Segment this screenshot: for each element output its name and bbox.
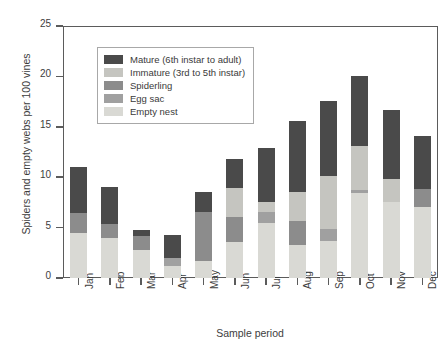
bar-segment [289,221,306,245]
x-axis-tick-mark [78,278,80,285]
bar-segment [414,189,431,207]
legend-item: Spiderling [104,79,245,92]
y-axis-tick-label: 0 [45,270,51,281]
bar-segment [70,213,87,232]
y-axis-tick-label: 10 [40,169,51,180]
y-axis-tick-mark [56,176,63,178]
x-axis-tick-mark [172,278,174,285]
bar-jan [70,167,87,278]
bar-segment [258,202,275,212]
legend: Mature (6th instar to adult)Immature (3r… [97,47,254,124]
bar-segment [133,236,150,250]
x-axis-tick-mark [359,278,361,285]
stacked-bar-chart: Spiders and empty webs per 100 vines Sam… [0,0,445,348]
bar-segment [414,207,431,278]
bar-segment [70,167,87,213]
bar-apr [164,235,181,278]
bar-segment [258,212,275,222]
x-axis-tick-mark [422,278,424,285]
legend-swatch [104,81,123,90]
bar-mar [133,230,150,278]
bar-segment [101,224,118,238]
y-axis-tick-mark [56,227,63,229]
x-axis-tick-mark [265,278,267,285]
legend-item: Mature (6th instar to adult) [104,53,245,66]
bar-segment [351,190,368,193]
x-axis-tick-mark [297,278,299,285]
bar-oct [351,76,368,278]
bar-segment [195,212,212,260]
bar-segment [133,230,150,236]
bar-aug [289,121,306,278]
y-axis-tick-label: 25 [40,18,51,29]
x-axis-tick-mark [140,278,142,285]
y-axis-tick-label: 15 [40,119,51,130]
bar-segment [258,148,275,202]
legend-label: Empty nest [130,107,178,117]
bar-segment [164,258,181,266]
bar-segment [164,235,181,258]
bar-segment [320,101,337,177]
bar-feb [101,187,118,278]
legend-item: Immature (3rd to 5th instar) [104,66,245,79]
legend-label: Immature (3rd to 5th instar) [130,68,245,78]
bar-segment [383,179,400,202]
bar-segment [70,233,87,278]
y-axis-title: Spiders and empty webs per 100 vines [20,34,32,254]
bar-segment [101,187,118,223]
legend-swatch [104,107,123,116]
bar-segment [226,217,243,242]
bar-segment [226,242,243,278]
y-axis-tick-label: 20 [40,68,51,79]
bar-jul [258,148,275,278]
y-axis-tick-mark [56,76,63,78]
x-axis-tick-mark [390,278,392,285]
bar-may [195,192,212,278]
y-axis-tick-label: 5 [45,220,51,231]
bar-dec [414,136,431,278]
y-axis-tick-mark [56,25,63,27]
bar-segment [414,136,431,189]
bar-segment [195,192,212,212]
bar-segment [226,188,243,216]
bar-segment [383,110,400,180]
y-axis-tick-mark [56,277,63,279]
bar-segment [195,261,212,278]
x-axis-title: Sample period [60,327,440,339]
legend-label: Mature (6th instar to adult) [130,55,241,65]
y-axis-tick-mark [56,126,63,128]
x-axis-tick-mark [328,278,330,285]
bar-segment [164,266,181,278]
x-axis-tick-label: Jul [271,276,282,289]
bar-segment [320,176,337,228]
bar-segment [289,245,306,278]
bar-segment [383,202,400,278]
bar-segment [289,121,306,193]
x-axis-tick-mark [234,278,236,285]
bar-segment [351,146,368,190]
bar-jun [226,159,243,278]
legend-label: Egg sac [130,94,164,104]
legend-item: Empty nest [104,105,245,118]
bar-segment [133,250,150,278]
legend-swatch [104,55,123,64]
bar-segment [351,193,368,278]
bar-segment [101,238,118,278]
bar-segment [289,192,306,220]
x-axis-tick-mark [109,278,111,285]
legend-item: Egg sac [104,92,245,105]
legend-label: Spiderling [130,81,172,91]
bar-segment [320,229,337,241]
bar-segment [226,159,243,188]
bar-nov [383,110,400,278]
bar-sep [320,101,337,278]
legend-swatch [104,68,123,77]
bar-segment [351,76,368,146]
legend-swatch [104,94,123,103]
x-axis-tick-mark [203,278,205,285]
bar-segment [320,241,337,278]
bar-segment [258,223,275,278]
